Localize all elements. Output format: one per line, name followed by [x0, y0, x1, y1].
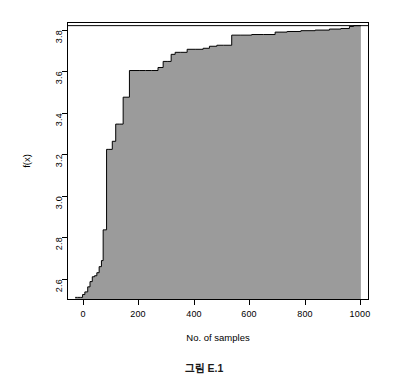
x-tick-mark — [305, 300, 306, 305]
x-axis-title-text: No. of samples — [186, 332, 249, 343]
y-tick-label: 3.8 — [55, 30, 64, 43]
figure-caption-text: 그림 E.1 — [185, 362, 224, 374]
x-tick-label: 1000 — [350, 309, 371, 319]
x-tick-mark — [83, 300, 84, 305]
figure-container: 3.8 3.6 3.4 3.2 3.0 2.8 2.6 f(x) 0 200 4… — [0, 0, 404, 390]
y-tick-label: 3.2 — [55, 154, 64, 167]
step-area-chart — [68, 23, 368, 299]
x-tick-mark — [194, 300, 195, 305]
x-tick-label: 400 — [186, 309, 202, 319]
series-area-fill — [75, 26, 361, 299]
x-tick-mark — [138, 300, 139, 305]
y-tick-label: 3.0 — [55, 196, 64, 209]
x-tick-label: 800 — [297, 309, 313, 319]
y-tick-label: 2.8 — [55, 237, 64, 250]
y-tick-label: 3.4 — [55, 113, 64, 126]
y-tick-label: 3.6 — [55, 71, 64, 84]
x-axis-title: No. of samples — [0, 332, 404, 343]
x-tick-label: 0 — [80, 309, 85, 319]
y-tick-label: 2.6 — [55, 279, 64, 292]
y-axis-title: f(x) — [22, 154, 32, 168]
figure-caption: 그림 E.1 — [0, 362, 404, 375]
plot-area — [67, 22, 369, 300]
x-tick-mark — [249, 300, 250, 305]
x-tick-label: 600 — [241, 309, 257, 319]
x-tick-mark — [360, 300, 361, 305]
x-tick-label: 200 — [130, 309, 146, 319]
